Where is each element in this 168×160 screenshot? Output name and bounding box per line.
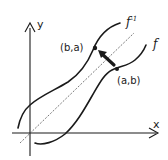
point-b-a (93, 46, 97, 50)
point-a-b-label: (a,b) (117, 75, 141, 86)
f-label: f (152, 37, 160, 51)
y-axis-label: y (37, 18, 44, 31)
point-b-a-label: (b,a) (60, 42, 84, 53)
x-axis: x (12, 118, 160, 138)
f-curve (35, 45, 146, 144)
f-inverse-label: f-1 (125, 15, 137, 29)
x-axis-label: x (153, 118, 160, 131)
inverse-function-diagram: y x (b,a) (a,b) f-1 f (0, 0, 168, 160)
reflection-arrow-icon (98, 50, 114, 65)
point-a-b (115, 67, 119, 71)
